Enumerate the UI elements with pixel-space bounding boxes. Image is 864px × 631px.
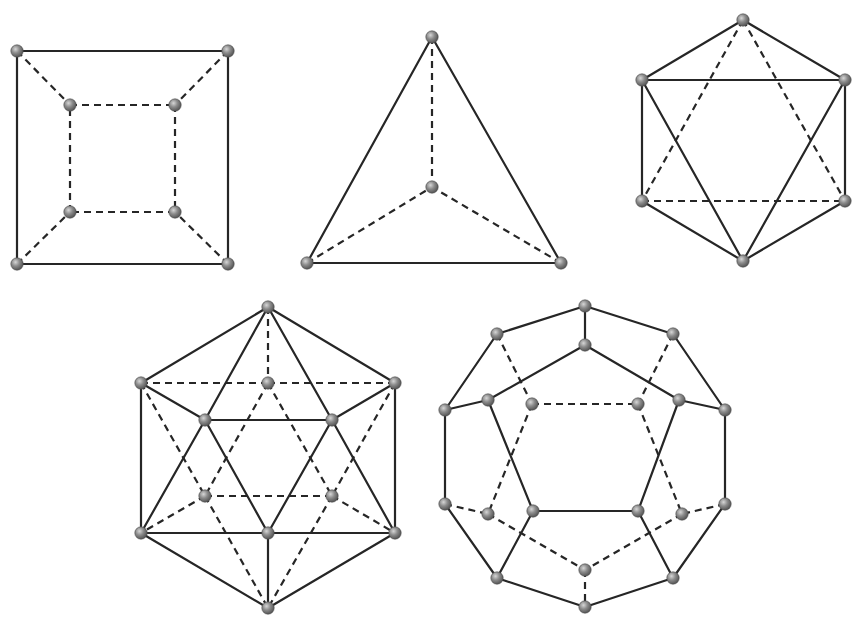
hidden-edge xyxy=(268,383,332,496)
visible-edge xyxy=(268,307,395,383)
visible-edge xyxy=(585,345,679,400)
hidden-edge xyxy=(432,187,561,263)
visible-edge xyxy=(141,533,268,608)
vertex-ball xyxy=(491,328,503,340)
vertex-ball xyxy=(169,206,181,218)
vertex-ball xyxy=(482,394,494,406)
hidden-edge xyxy=(175,212,228,264)
visible-edge xyxy=(268,420,332,533)
vertex-ball xyxy=(632,505,644,517)
hidden-edge xyxy=(488,514,585,570)
vertex-ball xyxy=(579,601,591,613)
vertex-ball xyxy=(527,505,539,517)
vertex-ball xyxy=(439,498,451,510)
vertex-ball xyxy=(262,377,274,389)
vertex-ball xyxy=(667,572,679,584)
visible-edge xyxy=(642,20,743,80)
visible-edge xyxy=(743,20,845,80)
vertex-ball xyxy=(737,255,749,267)
vertex-ball xyxy=(839,74,851,86)
visible-edge xyxy=(488,345,585,400)
vertex-ball xyxy=(326,414,338,426)
solid-cube xyxy=(11,45,234,270)
vertex-ball xyxy=(673,394,685,406)
vertex-ball xyxy=(64,206,76,218)
vertex-ball xyxy=(636,195,648,207)
visible-edge xyxy=(497,306,585,334)
vertex-ball xyxy=(11,258,23,270)
hidden-edge xyxy=(141,383,205,496)
vertex-ball xyxy=(262,527,274,539)
hidden-edge xyxy=(307,187,432,263)
vertex-ball xyxy=(719,498,731,510)
vertex-ball xyxy=(555,257,567,269)
hidden-edge xyxy=(205,383,268,496)
vertex-ball xyxy=(579,300,591,312)
visible-edge xyxy=(332,420,395,533)
hidden-edge xyxy=(743,20,845,201)
hidden-edge xyxy=(488,404,532,514)
vertex-ball xyxy=(667,328,679,340)
hidden-edge xyxy=(332,383,395,496)
vertex-ball xyxy=(636,74,648,86)
vertex-ball xyxy=(262,301,274,313)
visible-edge xyxy=(585,306,673,334)
vertex-ball xyxy=(199,414,211,426)
visible-edge xyxy=(268,533,395,608)
hidden-edge xyxy=(17,212,70,264)
vertex-ball xyxy=(262,602,274,614)
vertex-ball xyxy=(676,508,688,520)
solid-octahedron xyxy=(636,14,851,267)
solid-tetrahedron xyxy=(301,31,567,269)
visible-edge xyxy=(332,383,395,420)
vertex-ball xyxy=(199,490,211,502)
vertex-ball xyxy=(222,258,234,270)
visible-edge xyxy=(141,420,205,533)
visible-edge xyxy=(585,578,673,607)
vertex-ball xyxy=(482,508,494,520)
vertex-ball xyxy=(135,377,147,389)
visible-edge xyxy=(743,80,845,261)
hidden-edge xyxy=(205,496,268,608)
vertex-ball xyxy=(491,572,503,584)
visible-edge xyxy=(141,307,268,383)
vertex-ball xyxy=(426,181,438,193)
vertex-ball xyxy=(135,527,147,539)
vertex-ball xyxy=(389,377,401,389)
hidden-edge xyxy=(17,51,70,105)
vertex-ball xyxy=(839,195,851,207)
visible-edge xyxy=(205,307,268,420)
vertex-ball xyxy=(222,45,234,57)
hidden-edge xyxy=(638,404,682,514)
visible-edge xyxy=(642,80,743,261)
vertex-ball xyxy=(426,31,438,43)
vertex-ball xyxy=(719,404,731,416)
visible-edge xyxy=(307,37,432,263)
vertex-ball xyxy=(526,398,538,410)
solid-dodecahedron xyxy=(439,300,731,613)
visible-edge xyxy=(268,307,332,420)
vertex-ball xyxy=(632,398,644,410)
vertex-ball xyxy=(11,45,23,57)
vertex-ball xyxy=(579,339,591,351)
hidden-edge xyxy=(268,496,332,608)
visible-edge xyxy=(205,420,268,533)
vertex-ball xyxy=(169,99,181,111)
visible-edge xyxy=(743,201,845,261)
platonic-solids-diagram xyxy=(0,0,864,631)
vertex-ball xyxy=(301,257,313,269)
vertex-ball xyxy=(326,490,338,502)
hidden-edge xyxy=(175,51,228,105)
vertex-ball xyxy=(64,99,76,111)
solid-icosahedron xyxy=(135,301,401,614)
vertex-ball xyxy=(389,527,401,539)
visible-edge xyxy=(497,578,585,607)
vertex-ball xyxy=(737,14,749,26)
visible-edge xyxy=(432,37,561,263)
visible-edge xyxy=(642,201,743,261)
vertex-ball xyxy=(439,404,451,416)
vertex-ball xyxy=(579,564,591,576)
hidden-edge xyxy=(497,334,532,404)
hidden-edge xyxy=(585,514,682,570)
visible-edge xyxy=(141,383,205,420)
